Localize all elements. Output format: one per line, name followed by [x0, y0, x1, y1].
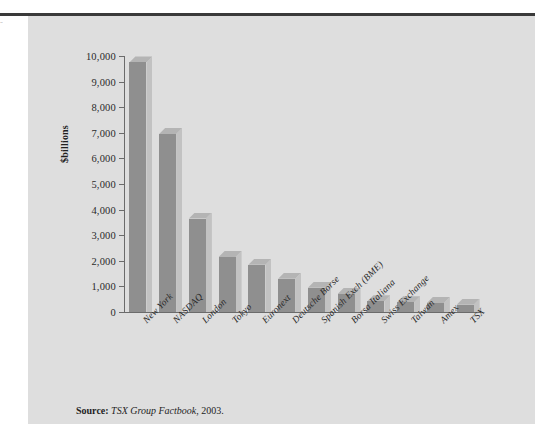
y-axis-title: $billions — [59, 125, 70, 163]
plot-area: 10,0009,0008,0007,0006,0005,0004,0003,00… — [124, 56, 481, 312]
bar-side-face — [265, 259, 271, 312]
source-year: , 2003. — [196, 405, 224, 416]
bar-front-face — [248, 265, 265, 312]
y-axis-tick — [119, 82, 124, 83]
y-axis-tick — [119, 286, 124, 287]
y-axis-tick-label: 6,000 — [91, 153, 116, 164]
y-axis-tick — [119, 184, 124, 185]
bar — [159, 128, 176, 312]
y-axis-tick — [119, 158, 124, 159]
y-axis-tick-label: 2,000 — [91, 255, 116, 266]
y-axis-tick — [119, 133, 124, 134]
y-axis-tick — [119, 210, 124, 211]
x-axis-label: Tokyo — [230, 318, 237, 325]
x-axis-label: Deutsche Borse — [290, 318, 297, 325]
y-axis-tick — [119, 107, 124, 108]
chart-panel: $billions 10,0009,0008,0007,0006,0005,00… — [28, 16, 535, 424]
y-axis-tick-label: 9,000 — [91, 76, 116, 87]
y-axis-tick — [119, 235, 124, 236]
x-axis-label: Euronext — [260, 318, 267, 325]
figure-container: = $billions 10,0009,0008,0007,0006,0005,… — [0, 0, 535, 441]
x-axis-label: NASDAQ — [171, 318, 178, 325]
x-axis-label: Amex — [438, 318, 445, 325]
bar-side-face — [176, 128, 182, 312]
bar-front-face — [129, 62, 146, 312]
y-axis-tick-label: 7,000 — [91, 127, 116, 138]
y-axis-tick-label: 4,000 — [91, 204, 116, 215]
margin-text-artifact: = — [0, 20, 6, 34]
source-label: Source: — [76, 405, 109, 416]
y-axis-tick — [119, 312, 124, 313]
bar-front-face — [159, 134, 176, 312]
y-axis-tick — [119, 56, 124, 57]
x-axis-label: New York — [141, 318, 148, 325]
bar-side-face — [146, 56, 152, 312]
bar-side-face — [236, 251, 242, 312]
y-axis-tick — [119, 261, 124, 262]
bar — [248, 259, 265, 312]
bar-side-face — [206, 213, 212, 312]
bar — [129, 56, 146, 312]
y-axis-tick-label: 10,000 — [86, 51, 116, 62]
source-note: Source: TSX Group Factbook, 2003. — [76, 405, 224, 416]
source-title: TSX Group Factbook — [111, 405, 196, 416]
y-axis-tick-label: 8,000 — [91, 102, 116, 113]
y-axis-tick-label: 0 — [111, 307, 116, 318]
x-axis-label: Swiss Exchange — [379, 318, 386, 325]
x-axis-label: Spanish Exch (BME) — [319, 318, 326, 325]
y-axis-tick-label: 1,000 — [91, 281, 116, 292]
x-axis-label: Borsa Italiana — [349, 318, 356, 325]
x-axis-label: Taiwan — [409, 318, 416, 325]
y-axis-line — [124, 56, 125, 313]
x-axis-label: TSX — [468, 318, 475, 325]
x-axis-label: London — [200, 318, 207, 325]
y-axis-tick-label: 5,000 — [91, 179, 116, 190]
y-axis-tick-label: 3,000 — [91, 230, 116, 241]
